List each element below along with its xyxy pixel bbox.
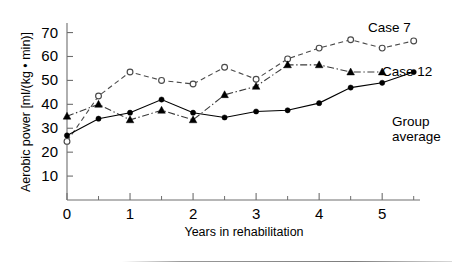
- x-tick-label: 2: [189, 205, 197, 222]
- data-point-marker: [379, 45, 385, 51]
- data-point-marker: [222, 115, 227, 120]
- data-point-marker: [284, 61, 292, 68]
- series-label: Case 7: [368, 20, 411, 35]
- y-tick-label: 40: [41, 95, 58, 112]
- y-tick-label: 50: [41, 71, 58, 88]
- y-tick-label: 10: [41, 167, 58, 184]
- axes-group: 10203040506070 012345: [41, 23, 420, 222]
- data-point-marker: [315, 61, 323, 68]
- data-point-marker: [190, 81, 196, 87]
- x-tick-label: 0: [63, 205, 71, 222]
- data-point-marker: [127, 69, 133, 75]
- y-axis-title: Aerobic power [ml/(kg • min)]: [19, 32, 33, 192]
- series-lines-group: [67, 40, 414, 142]
- y-tick-label: 70: [41, 24, 58, 41]
- data-point-marker: [95, 100, 103, 107]
- y-tick-label: 30: [41, 119, 58, 136]
- data-point-marker: [159, 78, 165, 84]
- chart-figure: 10203040506070 012345 Aerobic power [ml/…: [0, 0, 456, 269]
- x-axis-title: Years in rehabilitation: [184, 225, 303, 239]
- data-point-marker: [254, 109, 259, 114]
- x-tick-label: 4: [315, 205, 323, 222]
- aerobic-power-line-chart: 10203040506070 012345 Aerobic power [ml/…: [0, 0, 456, 269]
- y-axis-ticks: [67, 33, 73, 177]
- data-point-marker: [64, 138, 70, 144]
- data-point-marker: [380, 80, 385, 85]
- data-point-marker: [411, 38, 417, 44]
- x-axis-tick-labels: 012345: [63, 205, 387, 222]
- data-point-marker: [96, 93, 102, 99]
- data-point-marker: [96, 116, 101, 121]
- data-point-marker: [317, 101, 322, 106]
- data-point-marker: [348, 37, 354, 43]
- series-label: Case 12: [382, 64, 432, 79]
- data-point-marker: [158, 106, 166, 113]
- data-point-marker: [64, 133, 69, 138]
- y-tick-label: 20: [41, 143, 58, 160]
- data-point-marker: [252, 82, 260, 89]
- data-point-marker: [347, 68, 355, 75]
- data-point-marker: [190, 110, 195, 115]
- x-tick-label: 3: [252, 205, 260, 222]
- y-tick-label: 60: [41, 47, 58, 64]
- footer-divider: [122, 261, 452, 262]
- series-label: Group: [392, 114, 430, 129]
- data-point-marker: [159, 97, 164, 102]
- data-point-marker: [127, 110, 132, 115]
- series-label: average: [392, 129, 441, 144]
- data-point-marker: [316, 45, 322, 51]
- x-tick-label: 1: [126, 205, 134, 222]
- data-point-marker: [285, 108, 290, 113]
- series-labels-group: Case 7Case 12Groupaverage: [368, 20, 441, 144]
- y-axis-tick-labels: 10203040506070: [41, 24, 58, 185]
- data-point-marker: [222, 64, 228, 70]
- data-point-marker: [253, 76, 259, 82]
- data-point-marker: [348, 85, 353, 90]
- x-tick-label: 5: [378, 205, 386, 222]
- x-axis-ticks: [67, 193, 414, 200]
- series-line-group-average: [67, 72, 414, 135]
